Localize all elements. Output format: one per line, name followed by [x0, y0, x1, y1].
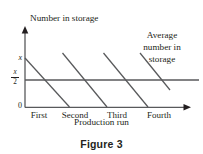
x-axis-title: Production run [0, 118, 203, 127]
x-axis-arrow-head [184, 104, 192, 111]
fraction-denominator: 2 [13, 79, 17, 87]
fraction-numerator: x [13, 69, 16, 77]
average-line-annotation: Average number in storage [126, 30, 198, 65]
average-annotation-line-2: number in [126, 42, 198, 54]
y-axis-arrow-head [22, 26, 29, 34]
figure-caption: Figure 3 [0, 138, 203, 150]
y-tick-label-x-over-2: x 2 [8, 69, 22, 86]
y-tick-label-x: x [8, 53, 22, 62]
y-axis-title: Number in storage [30, 14, 98, 23]
figure-3-container: Number in storage x x 2 0 First Second T… [0, 0, 203, 154]
y-tick-label-zero: 0 [8, 101, 22, 110]
sawtooth-segment-first [25, 58, 70, 107]
average-annotation-line-3: storage [126, 54, 198, 66]
average-annotation-line-1: Average [126, 30, 198, 42]
